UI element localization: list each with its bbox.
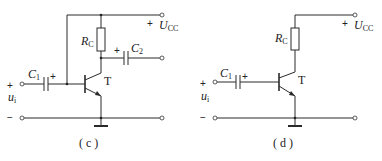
emitter-arrow-icon: [289, 91, 295, 96]
input-plus-terminal: [20, 82, 24, 86]
input-minus-sign: −: [7, 112, 13, 123]
input-minus-terminal: [20, 116, 24, 120]
output-ground-terminal: [353, 116, 357, 120]
circuit-c: + UCC RC + C2 C1 + T + ui − ( c ): [7, 13, 178, 150]
c2-polarity: +: [114, 45, 120, 56]
transistor-label: T: [104, 74, 112, 88]
c1-label: C1: [220, 66, 232, 81]
c2-label: C2: [131, 41, 143, 56]
output-ground-terminal: [160, 116, 164, 120]
transistor-label: T: [298, 73, 306, 87]
circuit-diagrams: + UCC RC + C2 C1 + T + ui − ( c ): [0, 0, 382, 161]
rc-label: RC: [80, 34, 94, 49]
transistor-collector: [279, 72, 295, 78]
supply-sign: +: [342, 18, 348, 29]
supply-terminal: [160, 13, 164, 17]
rc-label: RC: [274, 31, 288, 46]
input-minus-sign: −: [200, 112, 206, 123]
supply-terminal: [353, 13, 357, 17]
caption-d: ( d ): [273, 136, 293, 150]
input-plus-terminal: [213, 80, 217, 84]
junction-dot: [66, 83, 69, 86]
output-terminal: [160, 56, 164, 60]
input-label: ui: [8, 90, 17, 105]
junction-dot: [100, 14, 103, 17]
input-plus-sign: +: [200, 78, 206, 89]
transistor-collector: [85, 73, 101, 80]
c1-polarity: +: [50, 71, 56, 82]
supply-label: UCC: [354, 18, 373, 33]
caption-c: ( c ): [79, 136, 98, 150]
circuit-d: + UCC RC C1 + T + ui − ( d ): [200, 13, 373, 150]
supply-sign: +: [147, 18, 153, 29]
resistor-rc: [97, 28, 105, 51]
emitter-arrow-icon: [95, 91, 101, 96]
c1-polarity: +: [242, 71, 248, 82]
input-minus-terminal: [213, 116, 217, 120]
supply-label: UCC: [159, 18, 178, 33]
c1-label: C1: [28, 67, 40, 82]
input-label: ui: [201, 89, 210, 104]
resistor-rc: [291, 28, 299, 50]
